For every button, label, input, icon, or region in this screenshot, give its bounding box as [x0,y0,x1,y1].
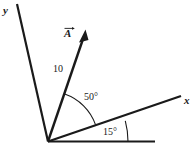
vector-diagram-figure: y x A 10 50° 15° [0,0,194,156]
angle-label-15: 15° [103,127,117,137]
vector-diagram-canvas [0,0,194,156]
vector-a-arrowhead [79,30,89,43]
y-axis-ray [17,4,48,142]
angle-label-50: 50° [84,92,98,102]
x-axis-label: x [184,95,190,106]
y-axis-label: y [3,5,8,16]
vector-a-label-group: A [64,28,71,39]
angle-arc-15 [125,121,128,142]
vector-a-shaft [48,39,83,142]
vector-a-label-wrap: A [64,28,71,39]
vector-arrow-overbar-icon [64,25,75,30]
vector-magnitude-label: 10 [53,64,63,74]
